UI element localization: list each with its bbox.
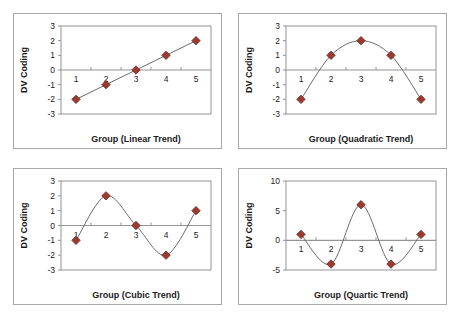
svg-text:4: 4 <box>164 74 169 84</box>
chart-linear: 3210-1-2-312345Group (Linear Trend)DV Co… <box>14 14 221 148</box>
chart-cubic: 3210-1-2-312345Group (Cubic Trend)DV Cod… <box>14 169 221 304</box>
svg-text:3: 3 <box>134 230 139 240</box>
svg-text:4: 4 <box>164 230 169 240</box>
chart-quartic: 1050-512345Group (Quartic Trend)DV Codin… <box>239 169 446 304</box>
svg-text:-1: -1 <box>47 235 55 245</box>
svg-text:-3: -3 <box>47 265 55 275</box>
svg-text:2: 2 <box>329 74 334 84</box>
svg-text:-2: -2 <box>47 250 55 260</box>
svg-text:0: 0 <box>50 65 55 75</box>
svg-text:3: 3 <box>359 244 364 254</box>
svg-text:3: 3 <box>50 176 55 186</box>
svg-text:1: 1 <box>299 244 304 254</box>
svg-text:DV Coding: DV Coding <box>19 47 29 93</box>
svg-text:4: 4 <box>389 244 394 254</box>
svg-text:3: 3 <box>134 74 139 84</box>
svg-text:1: 1 <box>74 74 79 84</box>
svg-text:2: 2 <box>329 244 334 254</box>
svg-text:1: 1 <box>50 206 55 216</box>
svg-text:DV Coding: DV Coding <box>19 203 29 249</box>
svg-text:1: 1 <box>275 50 280 60</box>
svg-text:3: 3 <box>359 74 364 84</box>
svg-text:0: 0 <box>275 65 280 75</box>
svg-text:5: 5 <box>194 230 199 240</box>
svg-text:-1: -1 <box>272 80 280 90</box>
chart-panel-quadratic: 3210-1-2-312345Group (Quadratic Trend)DV… <box>238 13 447 149</box>
svg-text:3: 3 <box>275 21 280 31</box>
svg-text:4: 4 <box>389 74 394 84</box>
svg-text:10: 10 <box>271 176 281 186</box>
svg-text:5: 5 <box>419 74 424 84</box>
svg-text:-3: -3 <box>272 109 280 119</box>
svg-text:1: 1 <box>299 74 304 84</box>
svg-text:Group (Quartic Trend): Group (Quartic Trend) <box>314 290 408 300</box>
chart-panel-cubic: 3210-1-2-312345Group (Cubic Trend)DV Cod… <box>13 168 222 305</box>
svg-text:5: 5 <box>275 206 280 216</box>
svg-text:-3: -3 <box>47 109 55 119</box>
svg-text:2: 2 <box>275 36 280 46</box>
chart-quadratic: 3210-1-2-312345Group (Quadratic Trend)DV… <box>239 14 446 148</box>
svg-text:-2: -2 <box>272 94 280 104</box>
svg-text:2: 2 <box>104 230 109 240</box>
chart-grid: 3210-1-2-312345Group (Linear Trend)DV Co… <box>0 0 459 317</box>
svg-text:Group (Linear Trend): Group (Linear Trend) <box>91 134 181 144</box>
svg-text:-2: -2 <box>47 94 55 104</box>
svg-text:0: 0 <box>275 235 280 245</box>
svg-text:-5: -5 <box>272 265 280 275</box>
svg-text:DV Coding: DV Coding <box>244 47 254 93</box>
svg-text:1: 1 <box>50 50 55 60</box>
chart-panel-quartic: 1050-512345Group (Quartic Trend)DV Codin… <box>238 168 447 305</box>
svg-text:-1: -1 <box>47 80 55 90</box>
svg-text:5: 5 <box>194 74 199 84</box>
svg-text:2: 2 <box>50 36 55 46</box>
svg-text:3: 3 <box>50 21 55 31</box>
svg-text:DV Coding: DV Coding <box>244 203 254 249</box>
svg-text:2: 2 <box>50 191 55 201</box>
svg-text:Group (Cubic Trend): Group (Cubic Trend) <box>92 290 180 300</box>
svg-text:5: 5 <box>419 244 424 254</box>
svg-text:Group (Quadratic Trend): Group (Quadratic Trend) <box>309 134 414 144</box>
chart-panel-linear: 3210-1-2-312345Group (Linear Trend)DV Co… <box>13 13 222 149</box>
svg-text:0: 0 <box>50 221 55 231</box>
